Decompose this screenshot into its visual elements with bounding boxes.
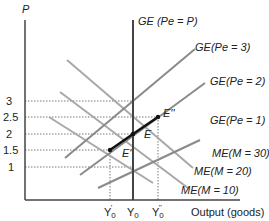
tick-2: 2 [6,128,12,140]
tick-2-5: 2.5 [3,111,18,123]
x-axis-label: Output (goods) [191,206,264,218]
me10-label: ME(M = 10) [181,184,239,196]
p-axis-label: P [22,3,30,15]
tick-3: 3 [6,95,12,107]
x-tick-y0-double: Y0'' [152,203,164,220]
x-tick-y0-prime: Y0' [104,203,116,220]
ge-vertical-label: GE (Pe = P) [138,15,198,27]
x-tick-y0: Y0 [127,206,139,220]
tick-1: 1 [8,161,14,173]
me30-label: ME(M = 30) [212,147,269,159]
me-lines [49,60,193,188]
point-e [131,132,135,136]
tick-1-5: 1.5 [3,144,18,156]
ge2-label: GE(Pe = 2) [210,75,266,87]
e-label: E [144,128,152,140]
e-double-label: E'' [163,107,175,119]
me20-label: ME(M = 20) [194,165,252,177]
point-e-double [156,115,160,119]
e-prime-label: E' [122,147,132,159]
chart: P 3 2.5 2 1.5 1 Y0' Y0 Y0'' Output (good… [0,0,269,221]
ge1-label: GE(Pe = 1) [210,114,266,126]
ge3-label: GE(Pe = 3) [195,41,251,53]
point-e-prime [108,148,112,152]
